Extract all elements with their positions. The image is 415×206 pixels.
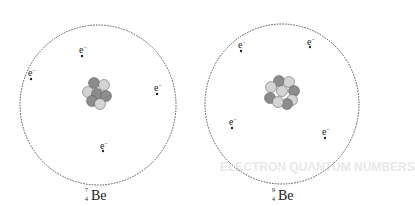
isotope-label-be-7: 7 4 Be <box>85 188 107 204</box>
svg-text:e−: e− <box>229 116 237 127</box>
svg-text:e−: e− <box>238 39 246 50</box>
nucleus <box>265 76 300 110</box>
svg-text:e−: e− <box>307 36 315 47</box>
atomic-number: 4 <box>85 196 88 202</box>
atomic-number: 4 <box>272 196 275 202</box>
atom-be-7: e− e− e− e− <box>20 25 176 185</box>
mass-number: 9 <box>272 187 275 193</box>
isotope-label-be-9: 9 4 Be <box>272 188 294 204</box>
mass-number: 7 <box>85 187 88 193</box>
svg-text:e−: e− <box>100 140 108 151</box>
element-symbol: Be <box>272 188 294 203</box>
svg-text:e−: e− <box>28 67 36 78</box>
svg-text:e−: e− <box>154 82 162 93</box>
svg-text:e−: e− <box>79 44 87 55</box>
element-symbol: Be <box>85 188 107 203</box>
atom-be-9: e− e− e− e− <box>205 24 359 184</box>
svg-text:e−: e− <box>322 126 330 137</box>
nucleus <box>83 78 112 110</box>
